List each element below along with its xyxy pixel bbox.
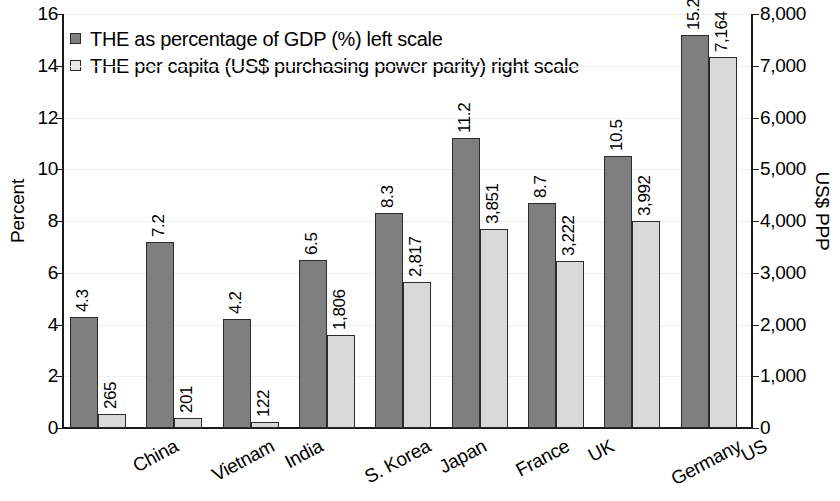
bar-value-label: 4.2 xyxy=(227,292,244,314)
y-axis-right-tick xyxy=(753,325,759,326)
bar-group: 8.32,817 xyxy=(369,14,445,428)
bar xyxy=(223,319,251,428)
bar-group: 4.2122 xyxy=(217,14,293,428)
x-axis-category-label: Japan xyxy=(435,436,488,476)
y-axis-right-tick xyxy=(753,14,759,15)
bar-value-label: 7.2 xyxy=(150,214,167,236)
x-axis-category-label: UK xyxy=(585,436,617,465)
y-axis-left-tick-label: 4 xyxy=(48,315,58,334)
bar-group: 11.23,851 xyxy=(446,14,522,428)
bar xyxy=(403,282,431,428)
x-axis-category-label: China xyxy=(130,436,181,475)
x-axis-category-label: Germany xyxy=(667,436,743,488)
bar xyxy=(70,317,98,428)
bar xyxy=(174,418,202,428)
y-axis-left-tick-label: 2 xyxy=(48,366,58,385)
bar xyxy=(146,242,174,428)
bar xyxy=(98,414,126,428)
y-axis-left-tick-label: 10 xyxy=(37,159,58,178)
y-axis-right-tick xyxy=(753,169,759,170)
bar-value-label: 6.5 xyxy=(303,232,320,254)
bar xyxy=(604,156,632,428)
bar-value-label: 3,851 xyxy=(484,183,501,224)
bar-value-label: 122 xyxy=(255,390,272,417)
bar xyxy=(681,35,709,428)
y-axis-right-tick-label: 6,000 xyxy=(760,108,806,127)
bar-value-label: 1,806 xyxy=(331,289,348,330)
x-axis-category-label: S. Korea xyxy=(362,436,434,486)
bar-value-label: 265 xyxy=(102,382,119,409)
y-axis-left-tick-label: 12 xyxy=(37,108,58,127)
bar xyxy=(709,57,737,428)
bar-group: 4.3265 xyxy=(64,14,140,428)
bar-value-label: 15.2 xyxy=(685,0,702,30)
bar xyxy=(452,138,480,428)
y-axis-left-tick-label: 8 xyxy=(48,211,58,230)
bar-group: 7.2201 xyxy=(140,14,216,428)
y-axis-right-tick-label: 4,000 xyxy=(760,211,806,230)
y-axis-right-title: US$ PPP xyxy=(811,171,833,251)
bar xyxy=(556,261,584,428)
bar-value-label: 2,817 xyxy=(407,237,424,278)
bar-value-label: 4.3 xyxy=(74,289,91,311)
chart-container: THE as percentage of GDP (%) left scale … xyxy=(0,0,840,501)
bar-group: 6.51,806 xyxy=(293,14,369,428)
bar-value-label: 11.2 xyxy=(456,103,473,133)
bar-value-label: 7,164 xyxy=(713,12,730,53)
y-axis-right-tick-label: 2,000 xyxy=(760,315,806,334)
y-axis-right-tick xyxy=(753,221,759,222)
y-axis-right-tick-label: 7,000 xyxy=(760,56,806,75)
bar xyxy=(528,203,556,428)
bar-group: 8.73,222 xyxy=(522,14,598,428)
y-axis-left-tick-label: 16 xyxy=(37,4,58,23)
bar xyxy=(251,422,279,428)
bar-group: 10.53,992 xyxy=(598,14,674,428)
x-axis-category-label: India xyxy=(281,436,325,471)
y-axis-left-tick-label: 6 xyxy=(48,263,58,282)
y-axis-right-tick-label: 1,000 xyxy=(760,366,806,385)
bar xyxy=(327,335,355,428)
y-axis-right-tick-label: 8,000 xyxy=(760,4,806,23)
y-axis-right-tick xyxy=(753,273,759,274)
y-axis-left-tick-label: 0 xyxy=(48,418,58,437)
bar-group: 15.27,164 xyxy=(675,14,751,428)
x-axis-category-label: Vietnam xyxy=(208,436,276,484)
bar-value-label: 3,222 xyxy=(560,216,577,257)
bar-value-label: 10.5 xyxy=(608,120,625,152)
bar-value-label: 201 xyxy=(178,385,195,412)
y-axis-right-tick xyxy=(753,66,759,67)
bar-value-label: 8.3 xyxy=(379,186,396,208)
y-axis-right-tick xyxy=(753,376,759,377)
bar xyxy=(480,229,508,428)
bar xyxy=(299,260,327,428)
y-axis-right-tick xyxy=(753,118,759,119)
x-axis-category-label: France xyxy=(513,436,573,480)
y-axis-right-tick xyxy=(753,428,759,429)
y-axis-left-title: Percent xyxy=(7,171,29,251)
x-axis-category-label: US xyxy=(738,436,770,465)
bar-value-label: 8.7 xyxy=(532,175,549,197)
y-axis-right-tick-label: 0 xyxy=(760,418,770,437)
y-axis-right-tick-label: 3,000 xyxy=(760,263,806,282)
plot-area: 4.32657.22014.21226.51,8068.32,81711.23,… xyxy=(64,14,751,428)
bar xyxy=(375,213,403,428)
y-axis-right-tick-label: 5,000 xyxy=(760,159,806,178)
bar xyxy=(632,221,660,428)
y-axis-left-tick-label: 14 xyxy=(37,56,58,75)
bar-value-label: 3,992 xyxy=(636,176,653,217)
